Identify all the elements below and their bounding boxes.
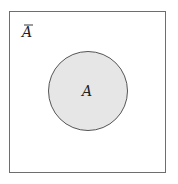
set-a-label: A: [80, 83, 92, 99]
venn-diagram: A A: [0, 0, 178, 184]
svg-text:A: A: [20, 24, 32, 40]
complement-label: A: [20, 24, 33, 40]
